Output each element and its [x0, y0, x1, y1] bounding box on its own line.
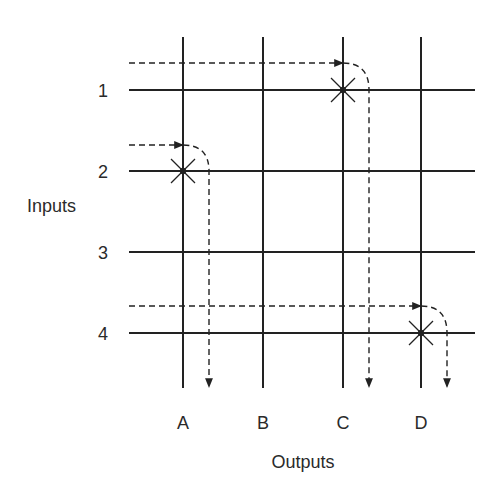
path-2-to-a-down [183, 145, 209, 387]
input-labels: 1 2 3 4 [98, 81, 108, 344]
crossbar-diagram: 1 2 3 4 Inputs A B C D Outputs [0, 0, 499, 492]
input-label-3: 3 [98, 243, 108, 263]
output-labels: A B C D [177, 413, 428, 433]
output-label-b: B [257, 413, 269, 433]
signal-paths [129, 63, 447, 387]
outputs-axis-label: Outputs [271, 452, 334, 472]
path-4-to-d-down [421, 306, 447, 387]
output-label-c: C [337, 413, 350, 433]
output-label-a: A [177, 413, 189, 433]
input-label-2: 2 [98, 162, 108, 182]
path-1-to-c-down [343, 63, 369, 387]
inputs-axis-label: Inputs [27, 196, 76, 216]
input-lines [129, 90, 475, 333]
input-label-4: 4 [98, 324, 108, 344]
crosspoints [171, 78, 433, 345]
input-label-1: 1 [98, 81, 108, 101]
output-label-d: D [415, 413, 428, 433]
